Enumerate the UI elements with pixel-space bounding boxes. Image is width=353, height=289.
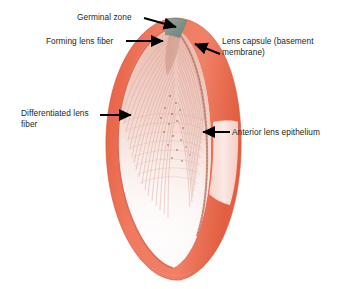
label-lens-capsule: Lens capsule (basement membrane) xyxy=(222,36,314,57)
label-forming-lens-fiber: Forming lens fiber xyxy=(46,36,113,47)
label-germinal-zone: Germinal zone xyxy=(77,12,132,23)
label-anterior-lens-epithelium: Anterior lens epithelium xyxy=(232,127,320,138)
label-differentiated-lens-fiber: Differentiated lens fiber xyxy=(21,108,89,129)
